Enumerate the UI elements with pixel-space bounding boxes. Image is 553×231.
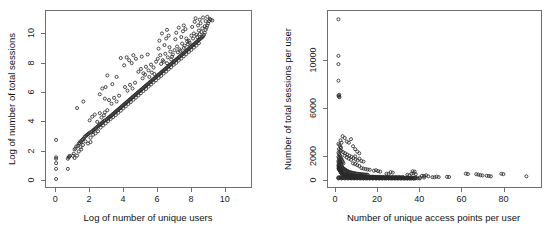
right-scatter-panel: 02040608002000600010000 Number of unique… xyxy=(277,0,553,231)
yaxis-tick xyxy=(41,151,45,152)
yaxis-tick xyxy=(41,63,45,64)
xaxis-tick xyxy=(157,188,158,192)
xaxis-tick xyxy=(419,188,420,192)
xaxis-tick-label: 0 xyxy=(332,195,337,204)
xaxis-tick-label: 2 xyxy=(87,195,92,204)
xaxis-tick-label: 0 xyxy=(53,195,58,204)
yaxis-tick-label: 10 xyxy=(27,13,36,53)
xaxis-tick xyxy=(123,188,124,192)
yaxis-tick xyxy=(41,180,45,181)
yaxis-tick xyxy=(41,33,45,34)
xaxis-tick xyxy=(377,188,378,192)
xaxis-tick xyxy=(55,188,56,192)
left-scatter-panel: 02468100246810 Log of number of unique u… xyxy=(0,0,277,231)
xaxis-tick xyxy=(461,188,462,192)
xaxis-tick xyxy=(335,188,336,192)
yaxis-tick xyxy=(41,92,45,93)
right-plot-canvas xyxy=(328,11,541,187)
yaxis-tick-label: 6000 xyxy=(308,88,317,128)
yaxis-tick xyxy=(323,180,327,181)
right-yaxis-title: Number of total sessions per user xyxy=(283,17,293,182)
xaxis-tick xyxy=(89,188,90,192)
xaxis-tick xyxy=(225,188,226,192)
left-yaxis-title: Log of number of total sessions xyxy=(7,24,17,174)
yaxis-tick xyxy=(41,121,45,122)
yaxis-tick-label: 2000 xyxy=(308,136,317,176)
left-xaxis-title: Log of number of unique users xyxy=(84,213,213,223)
yaxis-tick xyxy=(323,60,327,61)
xaxis-tick-label: 40 xyxy=(414,195,424,204)
left-plot-canvas xyxy=(46,11,251,187)
yaxis-tick xyxy=(323,108,327,109)
xaxis-tick-label: 20 xyxy=(372,195,382,204)
scatter-figure: 02468100246810 Log of number of unique u… xyxy=(0,0,553,231)
xaxis-tick-label: 60 xyxy=(456,195,466,204)
xaxis-tick-label: 4 xyxy=(121,195,126,204)
xaxis-tick-label: 80 xyxy=(499,195,509,204)
xaxis-tick-label: 6 xyxy=(154,195,159,204)
right-xaxis-title: Number of unique access points per user xyxy=(347,213,520,223)
xaxis-tick xyxy=(504,188,505,192)
yaxis-tick xyxy=(323,156,327,157)
xaxis-tick xyxy=(191,188,192,192)
xaxis-tick-label: 10 xyxy=(220,195,230,204)
xaxis-tick-label: 8 xyxy=(188,195,193,204)
yaxis-tick-label: 10000 xyxy=(308,40,317,80)
